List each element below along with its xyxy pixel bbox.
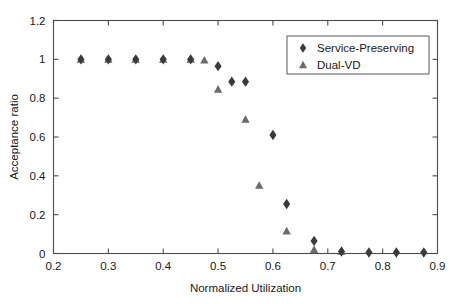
data-point-diamond [228, 76, 235, 86]
legend-label: Service-Preserving [317, 42, 414, 54]
data-point-diamond [160, 54, 167, 64]
y-tick-label: 0 [39, 248, 45, 260]
data-point-diamond [269, 130, 276, 140]
x-tick-label: 0.9 [430, 260, 446, 272]
data-point-diamond [187, 54, 194, 64]
data-point-diamond [77, 54, 84, 64]
scatter-plot: 0.20.30.40.50.60.70.80.900.20.40.60.811.… [0, 0, 461, 304]
chart-figure: 0.20.30.40.50.60.70.80.900.20.40.60.811.… [0, 0, 461, 304]
data-point-diamond [283, 199, 290, 209]
x-tick-label: 0.5 [210, 260, 226, 272]
x-tick-label: 0.6 [265, 260, 281, 272]
x-tick-label: 0.4 [155, 260, 172, 272]
x-tick-label: 0.2 [46, 260, 62, 272]
data-point-triangle [241, 115, 249, 123]
data-point-diamond [393, 247, 400, 257]
data-point-diamond [132, 54, 139, 64]
data-point-diamond [311, 236, 318, 246]
data-point-diamond [105, 54, 112, 64]
data-point-triangle [200, 56, 208, 64]
data-point-diamond [215, 61, 222, 71]
y-tick-label: 1.2 [30, 15, 46, 27]
data-point-triangle [282, 227, 290, 235]
data-point-triangle [310, 245, 318, 253]
data-point-diamond [338, 246, 345, 256]
data-point-triangle [255, 181, 263, 189]
x-tick-label: 0.7 [320, 260, 336, 272]
x-tick-label: 0.8 [375, 260, 391, 272]
data-point-diamond [365, 247, 372, 257]
y-tick-label: 0.2 [30, 209, 46, 221]
x-axis-title: Normalized Utilization [190, 282, 301, 294]
x-tick-label: 0.3 [100, 260, 116, 272]
y-tick-label: 0.4 [30, 170, 47, 182]
data-point-diamond [242, 76, 249, 86]
data-point-triangle [214, 85, 222, 93]
y-tick-label: 1 [39, 53, 45, 65]
y-tick-label: 0.6 [30, 131, 46, 143]
legend-label: Dual-VD [317, 59, 360, 71]
y-axis-title: Acceptance ratio [8, 94, 20, 180]
data-point-diamond [420, 247, 427, 257]
y-tick-label: 0.8 [30, 92, 46, 104]
